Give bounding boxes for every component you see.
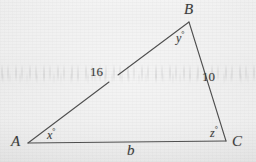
side-length-bc: 10	[202, 70, 215, 83]
geometry-figure: A B C 16 10 b x° y° z°	[0, 0, 256, 162]
angle-a-degree-icon: °	[52, 127, 55, 136]
segment-ab-lower	[28, 82, 109, 143]
angle-label-c: z°	[210, 126, 218, 139]
angle-label-a: x°	[47, 128, 56, 141]
side-length-ab: 16	[90, 65, 103, 78]
vertex-label-b: B	[184, 2, 193, 17]
side-length-ac: b	[127, 143, 135, 158]
angle-c-degree-icon: °	[215, 125, 218, 134]
angle-b-degree-icon: °	[181, 30, 184, 39]
segment-ab-upper	[118, 22, 189, 75]
vertex-label-c: C	[232, 134, 242, 149]
angle-label-b: y°	[176, 31, 185, 44]
vertex-label-a: A	[11, 134, 20, 149]
